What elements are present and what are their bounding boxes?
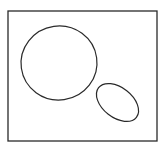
drawing-canvas bbox=[0, 0, 164, 150]
small-ellipse bbox=[89, 76, 145, 129]
large-circle bbox=[16, 21, 102, 105]
frame-rectangle bbox=[8, 11, 157, 141]
diagram-svg bbox=[0, 0, 164, 150]
